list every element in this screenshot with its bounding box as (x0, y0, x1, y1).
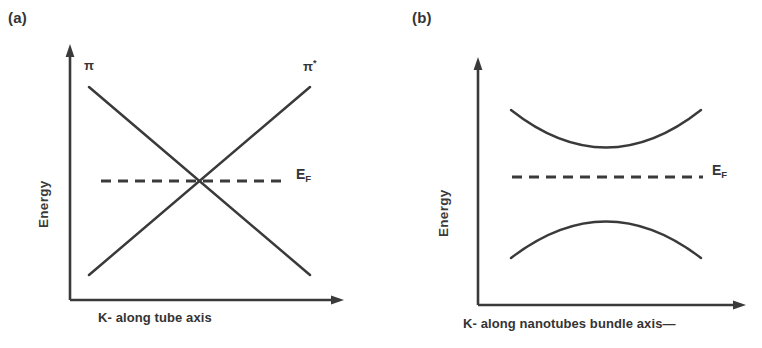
panel-a-plot (0, 0, 381, 348)
panel-a-x-axis (70, 296, 344, 305)
panel-b-valence-band (511, 222, 701, 259)
panel-a: (a) Energy π π* EF K- along tube axis (0, 0, 381, 348)
panel-a-x-axis-label: K- along tube axis (98, 310, 212, 325)
panel-a-pi-label: π (84, 58, 94, 73)
panel-b-conduction-band (511, 110, 701, 148)
figure-root: (a) Energy π π* EF K- along tube axis (0, 0, 762, 348)
panel-a-y-axis (66, 44, 75, 300)
panel-b-x-axis-label: K- along nanotubes bundle axis— (463, 316, 676, 331)
panel-b-x-axis (478, 301, 746, 310)
panel-a-fermi-level-label: EF (296, 166, 311, 182)
panel-b: (b) Energy EF K- along nanotubes bundle … (381, 0, 762, 348)
panel-b-plot (381, 0, 762, 348)
panel-b-fermi-level-label: EF (712, 162, 727, 178)
panel-b-y-axis (474, 57, 483, 305)
panel-a-pi-star-label: π* (303, 58, 316, 74)
